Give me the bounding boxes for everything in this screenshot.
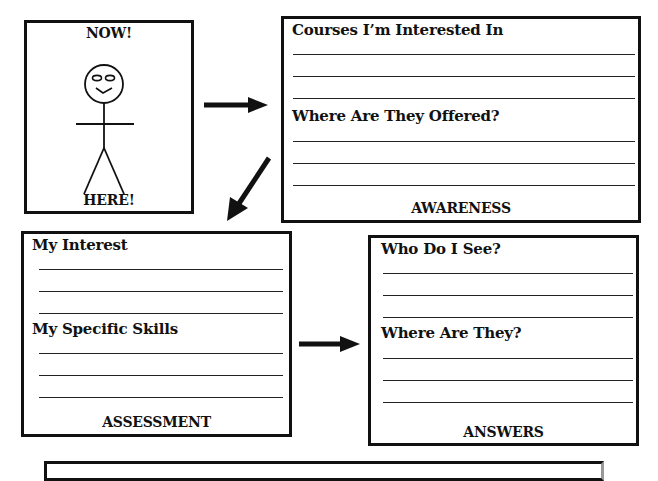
blank-line[interactable] [383, 273, 633, 274]
blank-line[interactable] [39, 353, 283, 354]
blank-line[interactable] [293, 185, 635, 186]
blank-line[interactable] [383, 358, 633, 359]
awareness-caption: AWARENESS [284, 200, 638, 216]
blank-line[interactable] [383, 402, 633, 403]
blank-line[interactable] [39, 397, 283, 398]
awareness-heading-where-offered: Where Are They Offered? [292, 107, 499, 125]
blank-line[interactable] [39, 313, 283, 314]
blank-line[interactable] [39, 375, 283, 376]
blank-line[interactable] [383, 317, 633, 318]
blank-line[interactable] [383, 295, 633, 296]
bottom-box [44, 461, 604, 481]
answers-box: Who Do I See? Where Are They? ANSWERS [368, 235, 639, 446]
arrow-right-icon [297, 335, 363, 355]
blank-line[interactable] [293, 98, 635, 99]
arrow-right-icon [202, 96, 272, 116]
arrow-down-left-icon [224, 155, 274, 225]
assessment-box: My Interest My Specific Skills ASSESSMEN… [21, 231, 292, 437]
awareness-heading-courses: Courses I’m Interested In [292, 21, 503, 39]
answers-caption: ANSWERS [371, 424, 636, 440]
figure-box: NOW! HERE! [24, 20, 194, 214]
blank-line[interactable] [39, 291, 283, 292]
blank-line[interactable] [293, 141, 635, 142]
answers-heading-who: Who Do I See? [381, 240, 501, 258]
assessment-heading-interest: My Interest [32, 236, 128, 254]
awareness-box: Courses I’m Interested In Where Are They… [281, 16, 641, 223]
blank-line[interactable] [39, 269, 283, 270]
figure-bottom-label: HERE! [27, 192, 191, 208]
blank-line[interactable] [293, 54, 635, 55]
assessment-caption: ASSESSMENT [24, 414, 289, 430]
blank-line[interactable] [293, 163, 635, 164]
blank-line[interactable] [293, 76, 635, 77]
assessment-heading-skills: My Specific Skills [32, 320, 178, 338]
answers-heading-where: Where Are They? [381, 324, 521, 342]
stick-figure-icon [24, 20, 194, 214]
blank-line[interactable] [383, 380, 633, 381]
